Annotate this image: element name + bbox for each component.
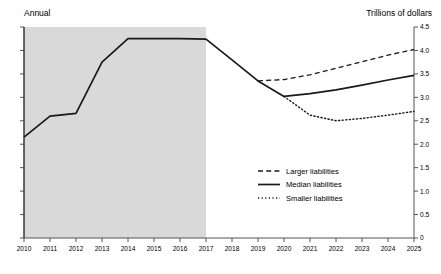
svg-text:0: 0: [420, 234, 424, 241]
svg-text:2.0: 2.0: [420, 141, 429, 148]
svg-text:2013: 2013: [95, 245, 110, 252]
line-chart-plot: 00.51.01.52.02.53.03.54.04.5 20102011201…: [0, 0, 441, 274]
svg-text:2022: 2022: [329, 245, 344, 252]
svg-text:2025: 2025: [407, 245, 422, 252]
x-axis-tick-labels: 2010201120122013201420152016201720182019…: [17, 245, 422, 252]
svg-text:2.5: 2.5: [420, 117, 429, 124]
series-line-smaller-liabilities: [284, 96, 414, 120]
svg-text:4.5: 4.5: [420, 23, 429, 30]
svg-text:2023: 2023: [355, 245, 370, 252]
chart-legend: Larger liabilitiesMedian liabilitiesSmal…: [258, 167, 343, 203]
svg-text:2024: 2024: [381, 245, 396, 252]
svg-text:3.0: 3.0: [420, 94, 429, 101]
svg-text:2016: 2016: [173, 245, 188, 252]
svg-text:2019: 2019: [251, 245, 266, 252]
svg-text:2017: 2017: [199, 245, 214, 252]
svg-text:2020: 2020: [277, 245, 292, 252]
right-axis-ticks: [414, 27, 418, 238]
svg-text:2010: 2010: [17, 245, 32, 252]
left-axis-ticks: [20, 27, 24, 238]
svg-text:2011: 2011: [43, 245, 58, 252]
svg-text:1.5: 1.5: [420, 164, 429, 171]
chart-container: Annual Trillions of dollars 00.51.01.52.…: [0, 0, 441, 274]
svg-text:2014: 2014: [121, 245, 136, 252]
svg-text:0.5: 0.5: [420, 211, 429, 218]
historical-shaded-region: [24, 27, 206, 238]
legend-label: Median liabilities: [286, 180, 342, 189]
series-line-larger-liabilities: [258, 50, 414, 81]
svg-text:2018: 2018: [225, 245, 240, 252]
svg-text:2021: 2021: [303, 245, 318, 252]
svg-text:3.5: 3.5: [420, 70, 429, 77]
legend-label: Smaller liabilities: [286, 194, 343, 203]
svg-text:1.0: 1.0: [420, 188, 429, 195]
svg-text:4.0: 4.0: [420, 47, 429, 54]
svg-text:2015: 2015: [147, 245, 162, 252]
x-axis-ticks: [24, 238, 414, 242]
y-axis-tick-labels: 00.51.01.52.02.53.03.54.04.5: [420, 23, 429, 241]
legend-label: Larger liabilities: [286, 167, 339, 176]
svg-text:2012: 2012: [69, 245, 84, 252]
